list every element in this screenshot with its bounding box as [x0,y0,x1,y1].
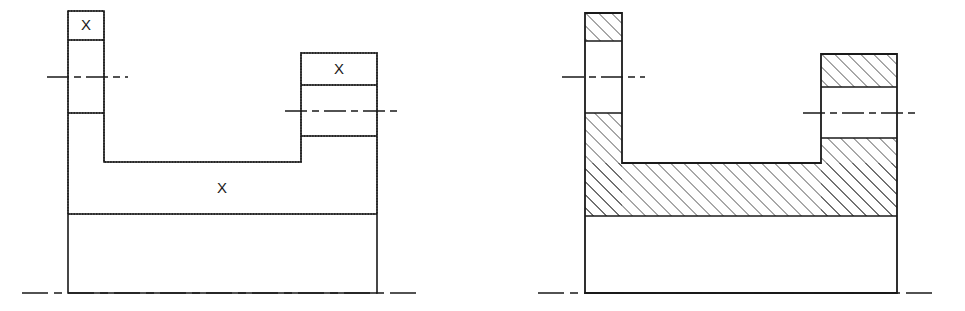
hatch-right-stub-top-band [821,54,897,87]
hatch-main-body-slab [585,163,897,216]
drawing-canvas: X X X [0,0,965,311]
right-figure [538,13,937,293]
hatch-left-stub-top-band [585,13,622,41]
left-figure-centerlines [47,77,397,111]
left-figure: X X X [22,11,420,293]
right-figure-hatch-fills [585,13,897,216]
mark-body-middle: X [217,179,227,196]
mark-right-stub-top: X [334,60,344,77]
left-figure-outline [68,11,377,293]
mark-left-stub-top: X [81,16,91,33]
technical-drawing-svg: X X X [0,0,965,311]
